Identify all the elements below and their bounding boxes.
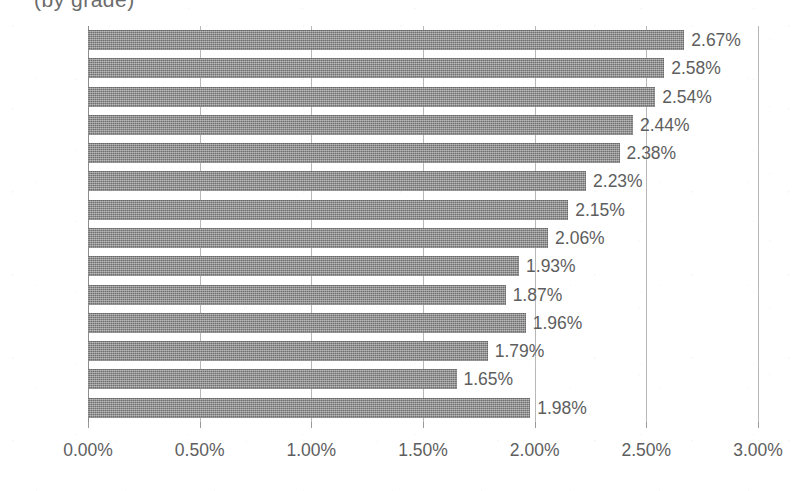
bar-row: 1st2.54%	[88, 83, 758, 111]
gridline	[758, 26, 759, 422]
x-axis-tick	[423, 422, 424, 428]
bar-row: 11th1.65%	[88, 365, 758, 393]
x-axis-tick	[311, 422, 312, 428]
bar-row: 3rd2.38%	[88, 139, 758, 167]
bar-row: 8th1.87%	[88, 281, 758, 309]
bar-value-label: 1.79%	[488, 337, 545, 365]
bar-chart: (by grade) Pre-K2.67%K2.58%1st2.54%2nd2.…	[0, 0, 796, 491]
bar	[88, 87, 655, 107]
x-axis-tick-label: 0.00%	[63, 440, 113, 461]
bar-value-label: 1.93%	[519, 252, 576, 280]
bar-value-label: 2.06%	[548, 224, 605, 252]
bar-value-label: 2.54%	[655, 83, 712, 111]
bar	[88, 369, 457, 389]
x-axis-tick-label: 2.50%	[622, 440, 672, 461]
bar	[88, 200, 568, 220]
bar-value-label: 2.67%	[684, 26, 741, 54]
bar-row: K2.58%	[88, 54, 758, 82]
x-axis-tick-label: 1.50%	[398, 440, 448, 461]
bar	[88, 313, 526, 333]
bar-value-label: 1.87%	[506, 281, 563, 309]
bar	[88, 285, 506, 305]
bar	[88, 398, 530, 418]
bar	[88, 228, 548, 248]
bar-value-label: 2.15%	[568, 196, 625, 224]
bar-row: 9th1.96%	[88, 309, 758, 337]
bar	[88, 115, 633, 135]
x-axis-tick-label: 0.50%	[175, 440, 225, 461]
bar-value-label: 2.38%	[620, 139, 677, 167]
x-axis-tick	[200, 422, 201, 428]
bar-row: 6th2.06%	[88, 224, 758, 252]
x-axis-tick-label: 2.00%	[510, 440, 560, 461]
bar	[88, 171, 586, 191]
x-axis-tick	[758, 422, 759, 428]
bar-row: Pre-K2.67%	[88, 26, 758, 54]
x-axis-tick-labels: 0.00%0.50%1.00%1.50%2.00%2.50%3.00%	[0, 440, 796, 470]
bar-value-label: 1.65%	[457, 365, 514, 393]
x-axis-tick-label: 1.00%	[287, 440, 337, 461]
x-axis-tick	[646, 422, 647, 428]
bar	[88, 58, 664, 78]
x-axis-tick	[88, 422, 89, 428]
bar-value-label: 2.58%	[664, 54, 721, 82]
bar-value-label: 2.44%	[633, 111, 690, 139]
bar	[88, 143, 620, 163]
bar-row: 10th1.79%	[88, 337, 758, 365]
bar-row: 5th2.15%	[88, 196, 758, 224]
bar	[88, 30, 684, 50]
bar-row: 2nd2.44%	[88, 111, 758, 139]
bar-row: 4th2.23%	[88, 167, 758, 195]
chart-title-truncated: (by grade)	[34, 0, 135, 12]
bar-value-label: 1.96%	[526, 309, 583, 337]
x-axis-tick	[535, 422, 536, 428]
bar-value-label: 1.98%	[530, 394, 587, 422]
bar-row: 7th1.93%	[88, 252, 758, 280]
bar-value-label: 2.23%	[586, 167, 643, 195]
bar	[88, 341, 488, 361]
bar	[88, 256, 519, 276]
x-axis-tick-label: 3.00%	[733, 440, 783, 461]
bar-row: 12th1.98%	[88, 394, 758, 422]
plot-area: Pre-K2.67%K2.58%1st2.54%2nd2.44%3rd2.38%…	[88, 26, 758, 422]
